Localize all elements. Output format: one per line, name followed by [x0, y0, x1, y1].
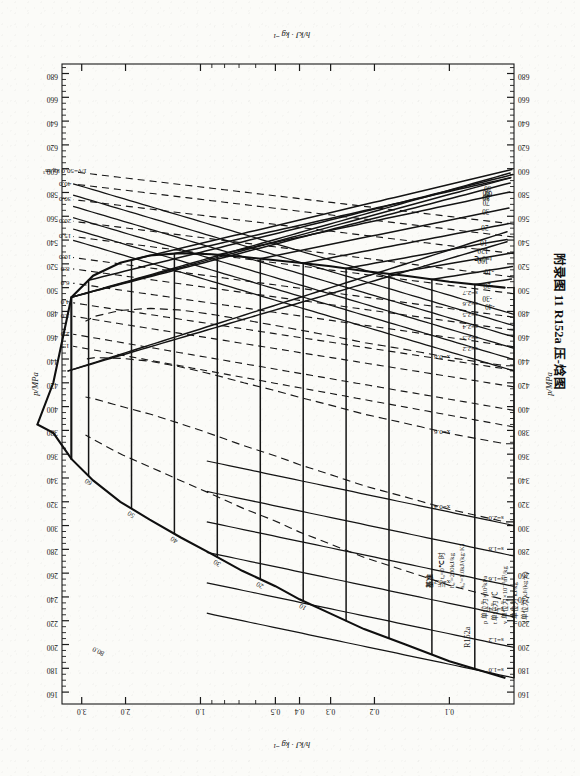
curve-label: 1.5	[60, 342, 69, 350]
curve-label: x=0.8	[434, 353, 451, 361]
axis-tick-label: 3.0	[77, 707, 87, 716]
curve-label: 2.0	[60, 330, 69, 338]
curve-label: 90	[482, 188, 490, 196]
figure-caption: 附录图 11 R152a 压-焓图	[552, 253, 566, 390]
isentrope-line	[207, 552, 514, 617]
isochore-line	[73, 283, 514, 347]
axis-tick-label: 220	[46, 619, 58, 628]
isotherm-line	[71, 183, 510, 459]
curve-label: -10	[484, 267, 494, 275]
unit-p: p 单位为×10²kPa	[480, 576, 489, 624]
unit-v: v 单位为×10⁻³m³/kg	[500, 566, 509, 624]
axis-tick-label: 640	[46, 119, 58, 128]
unit-t: t 单位为 ℃	[490, 591, 499, 624]
axis-tick-label: 0.2	[370, 707, 380, 716]
axis-tick-label: 160	[46, 690, 58, 699]
axis-tick-label: 680	[46, 72, 58, 81]
pressure-axis-ticks	[82, 64, 450, 704]
curve-label: s=2.4	[462, 324, 478, 331]
rotated-chart-container: 1601802002202402602803003203403603804004…	[0, 0, 580, 776]
curve-label: x=0.6	[434, 428, 451, 436]
axis-tick-label: 520	[46, 262, 58, 271]
pressure-axis-title-top: p/MPa	[30, 372, 40, 396]
curve-label: s=1.0	[488, 666, 504, 674]
curve-label: 30	[482, 207, 490, 215]
enthalpy-axis-ticks	[62, 68, 514, 693]
axis-tick-label: 180	[46, 666, 58, 675]
reference-heading: 基准	[425, 574, 434, 589]
axis-tick-label: 260	[46, 571, 58, 580]
curve-label: 100	[477, 256, 488, 264]
axis-tick-label: 560	[46, 214, 58, 223]
isotherm-line	[71, 178, 510, 459]
axis-tick-label: 580	[46, 190, 58, 199]
axis-tick-label: 500	[46, 286, 58, 295]
axis-tick-label: 480	[46, 309, 58, 318]
curve-label: -30	[482, 294, 492, 302]
saturation-curve	[37, 253, 504, 678]
axis-tick-label: 540	[46, 238, 58, 247]
plot-frame	[62, 64, 514, 704]
curve-label: 120	[477, 246, 488, 254]
isotherm-lines	[68, 170, 514, 678]
axis-tick-label: 400	[46, 405, 58, 414]
enthalpy-axis-title-right: h/kJ · kg⁻¹	[273, 30, 310, 40]
curve-label: 40.0	[58, 180, 71, 188]
isotherm-line	[260, 208, 509, 579]
curve-label: 10	[480, 238, 488, 246]
curve-label: s=1.8	[488, 544, 504, 552]
axis-tick-label: 0.3	[326, 707, 336, 716]
axis-tick-label: 0.1	[444, 707, 454, 716]
saturation-dome	[37, 253, 504, 678]
curve-label: x=0.4	[434, 503, 451, 511]
curve-label: 1/v=50.0 kg/m³	[43, 167, 87, 175]
curve-label: s=2.2	[462, 346, 478, 353]
axis-tick-label: 300	[46, 524, 58, 533]
curve-label: s=2.3	[462, 335, 478, 342]
curve-label: 20	[481, 223, 489, 231]
curve-label: 10.0	[58, 253, 71, 261]
isochore-line	[73, 172, 514, 224]
axis-tick-label: 620	[46, 143, 58, 152]
curve-label: 8.0	[60, 264, 69, 272]
axis-tick-label: 360	[46, 452, 58, 461]
curve-label: -20	[483, 281, 493, 289]
isotherm-line	[303, 224, 508, 601]
curve-label: 80.0	[91, 645, 106, 658]
axis-tick-label: 660	[46, 95, 58, 104]
ph-chart-svg: 1601802002202402602803003203403603804004…	[0, 0, 580, 776]
pressure-axis-labels-left: 3.02.01.00.50.40.30.20.1	[77, 707, 454, 716]
axis-tick-label: 0.4	[295, 707, 305, 716]
curve-label: 20.0	[58, 217, 71, 225]
curve-label: s=2.7	[462, 290, 478, 297]
reference-line-3: s₀′=1.0kJ/(kg·K)	[458, 544, 466, 588]
axis-tick-label: 340	[46, 476, 58, 485]
axis-tick-label: 460	[46, 333, 58, 342]
axis-tick-label: 280	[46, 547, 58, 556]
curve-label: 4.0	[60, 298, 69, 306]
reference-line-1: 当 t₀=0℃ 时	[437, 552, 446, 588]
reference-line-2: h₀′=200kJ/kg	[448, 552, 455, 588]
axis-tick-label: 0.5	[270, 707, 280, 716]
curve-label: 30.0	[58, 195, 71, 203]
curve-label: 6.0	[60, 279, 69, 287]
isochore-line	[73, 334, 514, 410]
curve-label: 3.0	[60, 312, 69, 320]
substance-label: R152a	[463, 626, 472, 648]
axis-tick-label: 1.0	[196, 707, 206, 716]
axis-tick-label: 320	[46, 500, 58, 509]
axis-tick-label: 2.0	[121, 707, 131, 716]
curve-label: -40	[485, 302, 495, 310]
curve-label: s=2.6	[462, 301, 478, 308]
axis-tick-label: 200	[46, 643, 58, 652]
isentrope-line	[207, 491, 514, 556]
curve-label: 15.0	[58, 232, 71, 240]
isentrope-line	[207, 461, 514, 526]
curve-label: s=2.5	[462, 312, 478, 319]
curve-label: s=2.0	[488, 514, 504, 522]
enthalpy-axis-title-left: h/kJ · kg⁻¹	[273, 740, 310, 750]
figure-caption-wrap: 附录图 11 R152a 压-焓图	[514, 0, 574, 776]
curve-label: s=1.2	[488, 636, 504, 644]
isochore-line	[73, 258, 514, 318]
scanned-chart-page: 1601802002202402602803003203403603804004…	[0, 0, 580, 776]
